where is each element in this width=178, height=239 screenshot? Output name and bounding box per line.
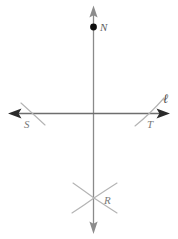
point-n-label: N: [100, 22, 107, 33]
point-r-label: R: [104, 195, 111, 206]
construction-figure: N S T R ℓ: [0, 0, 178, 239]
point-s-label: S: [24, 119, 30, 130]
line-l-label: ℓ: [163, 92, 168, 105]
point-t-label: T: [147, 119, 153, 130]
point-n-dot: [90, 24, 97, 31]
